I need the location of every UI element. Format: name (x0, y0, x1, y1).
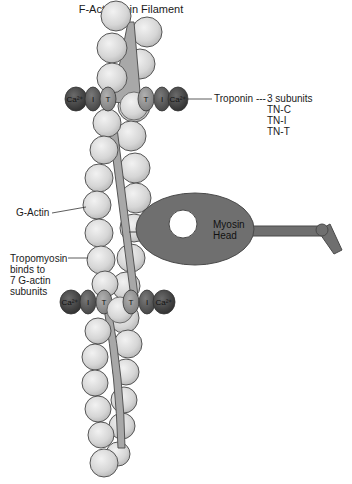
g-actin-leader-line (52, 207, 86, 213)
myosin-hinge (316, 224, 328, 236)
svg-text:T: T (144, 95, 149, 104)
svg-text:Ca²⁺: Ca²⁺ (156, 298, 173, 307)
troponin-subunits-list: 3 subunits TN-C TN-I TN-T (267, 93, 313, 137)
svg-text:I: I (161, 95, 163, 104)
myosin-binding-site (169, 210, 197, 238)
troponin-subunit-tnc: TN-C (267, 104, 313, 115)
svg-text:T: T (106, 95, 111, 104)
troponin-subunit-count: 3 subunits (267, 93, 313, 104)
svg-text:I: I (146, 298, 148, 307)
svg-text:Ca²⁺: Ca²⁺ (62, 298, 79, 307)
svg-text:T: T (102, 298, 107, 307)
ca-label: Ca²⁺ (67, 95, 84, 104)
troponin-subunit-tni: TN-I (267, 115, 313, 126)
myosin-head-label: Myosin Head (213, 219, 245, 241)
g-actin-label: G-Actin (16, 207, 49, 218)
svg-text:T: T (129, 298, 134, 307)
svg-text:I: I (92, 95, 94, 104)
svg-text:I: I (87, 298, 89, 307)
myosin-tail (245, 226, 321, 236)
thin-filament-diagram: F-Actin/Thin Filament (0, 0, 352, 484)
troponin-subunit-tnt: TN-T (267, 126, 313, 137)
troponin-label: Troponin --- (214, 93, 266, 104)
filament-illustration: Ca²⁺ I T T I Ca²⁺ Ca²⁺ I T T I Ca²⁺ (0, 0, 352, 484)
svg-text:Ca²⁺: Ca²⁺ (170, 95, 187, 104)
tropomyosin-label: Tropomyosin binds to 7 G-actin subunits (10, 253, 67, 297)
